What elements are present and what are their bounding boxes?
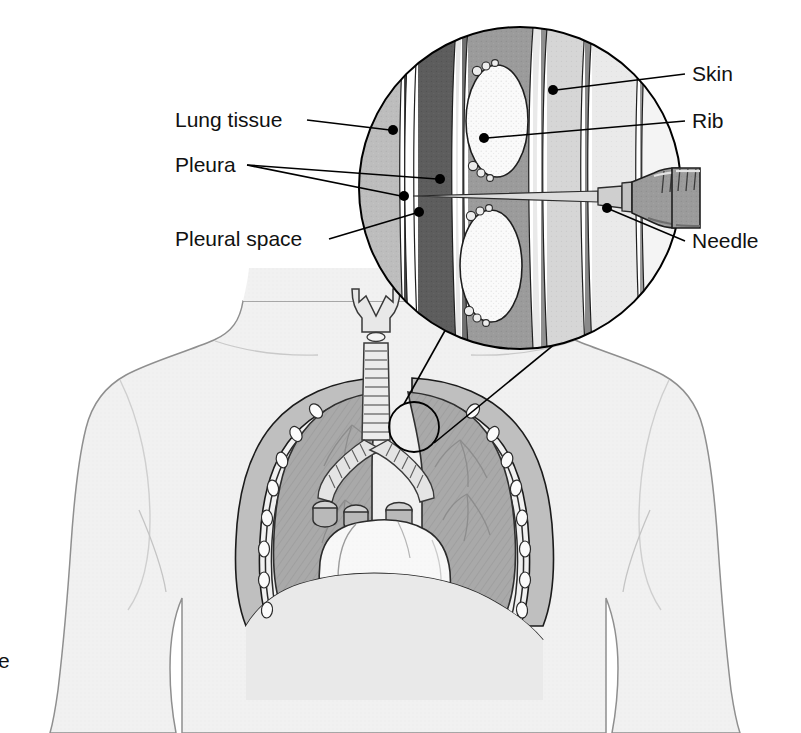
dot-lung-tissue bbox=[388, 125, 398, 135]
larynx-opening bbox=[367, 333, 385, 342]
inset-parietal-pleura bbox=[418, 27, 456, 349]
dot-pleura-b bbox=[399, 191, 409, 201]
thoracentesis-diagram: Lung tissue Pleura Pleural space Skin Ri… bbox=[0, 0, 801, 733]
dot-needle bbox=[602, 203, 612, 213]
label-lung-tissue: Lung tissue bbox=[175, 108, 282, 131]
label-needle: Needle bbox=[692, 229, 759, 252]
dot-rib bbox=[479, 133, 489, 143]
label-rib: Rib bbox=[692, 109, 724, 132]
trachea bbox=[362, 343, 390, 440]
needle-hub-collar bbox=[622, 182, 632, 212]
dot-pleural-space bbox=[414, 207, 424, 217]
dot-skin bbox=[548, 85, 558, 95]
label-skin: Skin bbox=[692, 62, 733, 85]
syringe-outside-circle bbox=[672, 168, 700, 228]
label-pleural-space: Pleural space bbox=[175, 227, 302, 250]
label-pleura: Pleura bbox=[175, 153, 236, 176]
dot-pleura-a bbox=[435, 174, 445, 184]
clipped-left-edge-text: e bbox=[0, 649, 10, 672]
inset-subcutaneous-fat bbox=[547, 27, 585, 349]
